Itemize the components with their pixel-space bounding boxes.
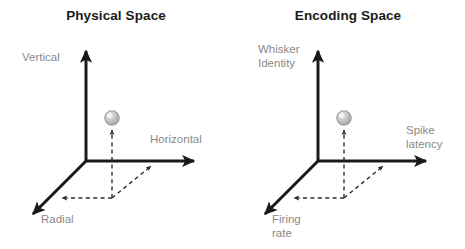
dashed-spike-projection xyxy=(344,166,383,198)
encoding-space-axes xyxy=(265,51,426,214)
physical-space-axes xyxy=(33,51,194,214)
sphere-highlight xyxy=(107,113,112,118)
dashed-horizontal-projection xyxy=(112,166,151,198)
data-point-sphere xyxy=(105,111,119,125)
sphere-highlight xyxy=(339,113,344,118)
data-point-sphere xyxy=(337,111,351,125)
firing-rate-axis-line xyxy=(265,161,318,214)
two-panel-axes-diagram: Physical Space Vertical Horizontal Radia… xyxy=(0,0,465,249)
radial-axis-line xyxy=(33,161,86,214)
axes-graphics xyxy=(0,0,465,249)
